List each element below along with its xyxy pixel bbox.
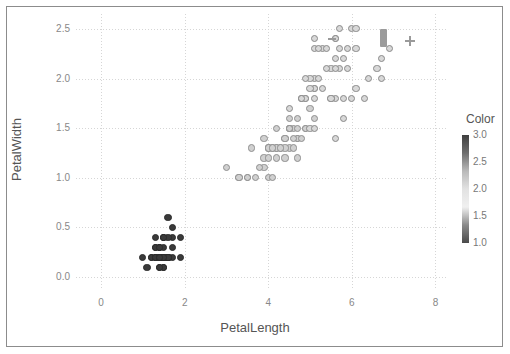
data-point: [286, 115, 293, 122]
gridline-vertical: [268, 14, 269, 290]
gridline-horizontal: [76, 227, 448, 228]
data-point: [340, 95, 347, 102]
data-point: [281, 154, 288, 161]
data-point: [169, 244, 176, 251]
dash-annotation[interactable]: [328, 38, 336, 40]
gridline-vertical: [101, 14, 102, 290]
y-tick-label: 2.0: [44, 73, 70, 84]
data-point: [361, 95, 368, 102]
bar-annotation[interactable]: [380, 29, 387, 47]
plus-vertical-stroke: [409, 36, 411, 46]
y-tick-label: 0.5: [44, 221, 70, 232]
data-point: [311, 125, 318, 132]
x-axis-label: PetalLength: [0, 320, 510, 335]
data-point: [327, 95, 334, 102]
data-point: [340, 55, 347, 62]
data-point: [260, 135, 267, 142]
colorbar-tick-label: 2.0: [473, 183, 487, 194]
data-point: [273, 125, 280, 132]
colorbar-tick-label: 3.0: [473, 129, 487, 140]
data-point: [244, 174, 251, 181]
data-point: [352, 85, 359, 92]
data-point: [294, 154, 301, 161]
plus-annotation[interactable]: [405, 36, 415, 46]
data-point: [156, 254, 163, 261]
plot-panel: [76, 14, 448, 290]
x-tick-label: 6: [337, 297, 367, 308]
colorbar-tick-label: 1.5: [473, 210, 487, 221]
data-point: [344, 65, 351, 72]
data-point: [332, 65, 339, 72]
data-point: [269, 174, 276, 181]
x-tick-label: 8: [420, 297, 450, 308]
gridline-vertical: [185, 14, 186, 290]
data-point: [373, 65, 380, 72]
y-tick-label: 1.0: [44, 172, 70, 183]
data-point: [177, 234, 184, 241]
data-point: [265, 154, 272, 161]
data-point: [378, 75, 385, 82]
gridline-horizontal: [76, 277, 448, 278]
y-tick-label: 0.0: [44, 271, 70, 282]
gridline-horizontal: [76, 128, 448, 129]
data-point: [139, 254, 146, 261]
data-point: [311, 35, 318, 42]
data-point: [352, 45, 359, 52]
data-point: [332, 55, 339, 62]
data-point: [164, 214, 171, 221]
data-point: [311, 95, 318, 102]
data-point: [336, 25, 343, 32]
data-point: [252, 174, 259, 181]
colorbar-tick-label: 2.5: [473, 156, 487, 167]
x-tick-label: 2: [170, 297, 200, 308]
data-point: [156, 244, 163, 251]
colorbar-gradient[interactable]: [462, 135, 469, 243]
data-point: [323, 45, 330, 52]
data-point: [306, 85, 313, 92]
data-point: [286, 105, 293, 112]
data-point: [294, 125, 301, 132]
data-point: [143, 264, 150, 271]
data-point: [152, 234, 159, 241]
data-point: [290, 135, 297, 142]
colorbar-tick-label: 1.0: [473, 237, 487, 248]
data-point: [177, 254, 184, 261]
legend-title: Color: [466, 112, 495, 126]
gridline-horizontal: [76, 29, 448, 30]
data-point: [306, 105, 313, 112]
x-tick-label: 0: [86, 297, 116, 308]
gridline-horizontal: [76, 79, 448, 80]
data-point: [277, 144, 284, 151]
data-point: [348, 95, 355, 102]
data-point: [223, 164, 230, 171]
data-point: [294, 115, 301, 122]
data-point: [365, 75, 372, 82]
gridline-vertical: [352, 14, 353, 290]
gridline-vertical: [435, 14, 436, 290]
color-legend: Color 3.02.52.01.51.0: [452, 112, 506, 252]
data-point: [344, 45, 351, 52]
data-point: [235, 174, 242, 181]
data-point: [340, 115, 347, 122]
x-tick-label: 4: [253, 297, 283, 308]
data-point: [269, 144, 276, 151]
y-axis-label: PetalWidth: [9, 90, 24, 210]
gridline-horizontal: [76, 178, 448, 179]
data-point: [352, 25, 359, 32]
data-point: [286, 125, 293, 132]
y-tick-label: 1.5: [44, 122, 70, 133]
data-point: [315, 75, 322, 82]
data-point: [281, 135, 288, 142]
data-point: [298, 135, 305, 142]
data-point: [290, 144, 297, 151]
data-point: [336, 45, 343, 52]
data-point: [378, 55, 385, 62]
data-point: [169, 224, 176, 231]
data-point: [319, 85, 326, 92]
y-tick-label: 2.5: [44, 23, 70, 34]
scatter-plot-figure: 02468 0.00.51.01.52.02.5 PetalLength Pet…: [0, 0, 510, 354]
data-point: [332, 135, 339, 142]
data-point: [311, 115, 318, 122]
data-point: [248, 144, 255, 151]
data-point: [273, 154, 280, 161]
